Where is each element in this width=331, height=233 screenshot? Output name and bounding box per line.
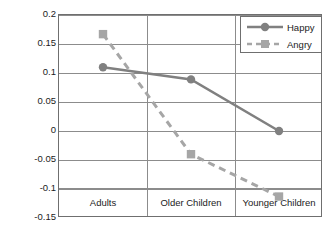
data-point-angry bbox=[99, 30, 107, 38]
data-point-happy bbox=[187, 75, 195, 83]
legend-label-happy: Happy bbox=[287, 22, 314, 33]
legend-swatch-happy-line-circle bbox=[245, 18, 285, 36]
y-tick-label: 0.2 bbox=[18, 9, 56, 19]
y-axis-tick-labels: 0.20.150.10.050-0.05-0.1-0.15 bbox=[16, 0, 56, 233]
data-point-angry bbox=[275, 192, 283, 200]
y-tick-label: -0.05 bbox=[18, 154, 56, 164]
chart-legend: Happy Angry bbox=[240, 16, 322, 53]
data-point-happy bbox=[275, 127, 283, 135]
y-tick-label: -0.1 bbox=[18, 183, 56, 193]
y-tick-label: 0.1 bbox=[18, 67, 56, 77]
legend-label-angry: Angry bbox=[287, 39, 312, 50]
chart-figure: % Signal Change 0.20.150.10.050-0.05-0.1… bbox=[0, 0, 331, 233]
y-tick-label: 0.05 bbox=[18, 96, 56, 106]
y-tick-label: 0 bbox=[18, 125, 56, 135]
legend-item-happy: Happy bbox=[241, 18, 321, 36]
y-tick-label: -0.15 bbox=[18, 212, 56, 222]
legend-item-angry: Angry bbox=[241, 35, 321, 53]
y-tick-label: 0.15 bbox=[18, 38, 56, 48]
data-point-happy bbox=[99, 63, 107, 71]
data-point-angry bbox=[187, 150, 195, 158]
legend-swatch-angry-dashed-square bbox=[245, 35, 285, 53]
